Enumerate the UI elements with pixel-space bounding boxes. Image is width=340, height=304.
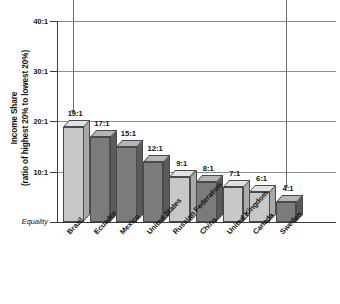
y-axis-label-40: 40:1 [2, 17, 48, 26]
y-axis-label-20: 20:1 [2, 117, 48, 126]
y-tick-equality [50, 222, 58, 223]
bar-value-label: 12:1 [139, 144, 172, 153]
y-tick-10 [50, 172, 58, 173]
y-axis-line [57, 21, 58, 223]
y-tick-40 [50, 21, 58, 22]
annotation-line-sweden [286, 0, 287, 186]
bar-front-face [116, 147, 137, 222]
y-axis-label-equality: Equality [2, 217, 48, 226]
y-tick-30 [50, 71, 58, 72]
annotation-arrowhead-brazil [71, 110, 75, 114]
bar-front-face [63, 127, 84, 222]
annotation-line-brazil [73, 0, 74, 111]
bar-value-label: 4:1 [272, 184, 305, 193]
y-tick-20 [50, 121, 58, 122]
bar-value-label: 6:1 [245, 174, 278, 183]
bar-ecuador[interactable] [90, 130, 111, 222]
bar-front-face [90, 137, 111, 222]
bar-mexico[interactable] [116, 140, 137, 222]
income-share-bar-chart: Income Share (ratio of highest 20% to lo… [0, 0, 340, 304]
bar-value-label: 17:1 [86, 119, 119, 128]
y-axis-label-30: 30:1 [2, 67, 48, 76]
bar-brazil[interactable] [63, 120, 84, 222]
bar-value-label: 15:1 [112, 129, 145, 138]
gridline-40 [58, 21, 336, 22]
y-axis-label-10: 10:1 [2, 168, 48, 177]
bar-value-label: 19:1 [59, 109, 92, 118]
gridline-30 [58, 71, 336, 72]
annotation-arrowhead-sweden [284, 185, 288, 189]
cropped-top-caption [0, 0, 340, 3]
